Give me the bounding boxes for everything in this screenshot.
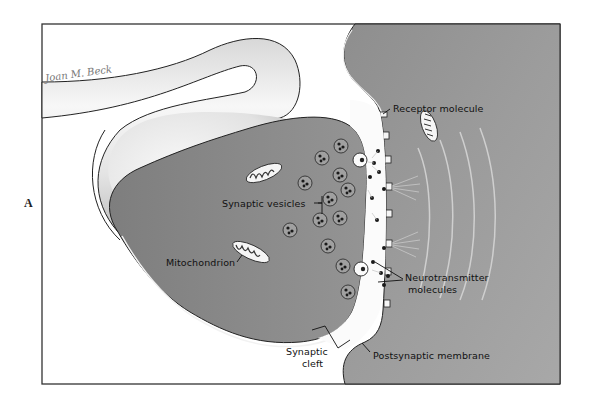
label-synaptic-vesicles: Synaptic vesicles	[222, 198, 306, 209]
panel-letter: A	[24, 196, 33, 211]
label-postsynaptic-membrane: Postsynaptic membrane	[373, 350, 490, 361]
synapse-diagram: Joan M. Beck A Receptor molecule Synapti…	[0, 0, 589, 405]
label-receptor-molecule: Receptor molecule	[393, 103, 484, 114]
label-synaptic-cleft-line2: cleft	[302, 358, 323, 369]
label-synaptic-cleft-line1: Synaptic	[286, 346, 328, 357]
label-mitochondrion: Mitochondrion	[166, 257, 235, 268]
label-neurotransmitter-line1: Neurotransmitter	[405, 272, 489, 283]
label-neurotransmitter-line2: molecules	[408, 284, 457, 295]
